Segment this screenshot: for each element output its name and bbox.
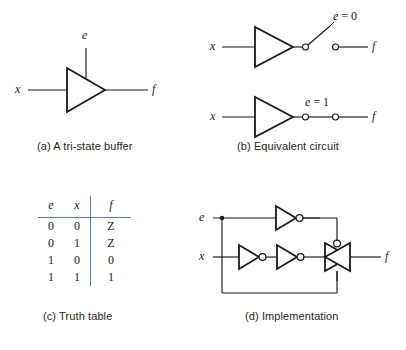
truth-table-header-row: e x f bbox=[38, 196, 131, 218]
panel-a-diagram bbox=[28, 48, 148, 112]
panel-c-caption: (c) Truth table bbox=[43, 310, 112, 322]
truth-table-cell-x: 1 bbox=[64, 235, 91, 252]
truth-table-cell-e: 0 bbox=[38, 218, 64, 236]
panel-b-open-condition-eq: = bbox=[341, 9, 348, 23]
panel-b-open-switch-left-contact bbox=[303, 44, 309, 50]
panel-b-closed-switch-right-contact bbox=[333, 114, 339, 120]
panel-a-enable-label: e bbox=[82, 28, 87, 43]
panel-b-open-condition-var: e bbox=[333, 9, 338, 23]
panel-b-caption: (b) Equivalent circuit bbox=[237, 140, 339, 152]
panel-a-caption: (a) A tri-state buffer bbox=[37, 140, 133, 152]
panel-b-open-switch-right-contact bbox=[333, 44, 339, 50]
panel-b-open-condition-label: e = 0 bbox=[333, 9, 357, 24]
truth-table-header-e: e bbox=[38, 196, 64, 218]
panel-b-open-output-label: f bbox=[372, 39, 375, 54]
panel-d-input-inverter2-symbol bbox=[277, 245, 297, 269]
panel-a-input-label: x bbox=[15, 82, 20, 97]
truth-table: e x f 0 0 Z 0 1 Z bbox=[38, 196, 146, 296]
panel-d-input-inverter1-symbol bbox=[239, 245, 259, 269]
truth-table-cell-e: 0 bbox=[38, 235, 64, 252]
truth-table-cell-f: Z bbox=[91, 235, 131, 252]
truth-table-cell-f: 1 bbox=[91, 269, 131, 286]
truth-table-cell-f: Z bbox=[91, 218, 131, 236]
panel-b-row-closed-diagram bbox=[222, 97, 368, 137]
panel-b-closed-input-label: x bbox=[210, 109, 215, 124]
table-row: 0 1 Z bbox=[38, 235, 131, 252]
panel-d-enable-inverter-symbol bbox=[276, 206, 296, 230]
truth-table-grid: e x f 0 0 Z 0 1 Z bbox=[38, 196, 131, 286]
truth-table-cell-e: 1 bbox=[38, 252, 64, 269]
panel-b-open-input-label: x bbox=[210, 39, 215, 54]
panel-d-pass-gate-bubble bbox=[334, 240, 341, 247]
panel-d-enable-inverter-bubble bbox=[296, 215, 303, 222]
table-row: 1 0 0 bbox=[38, 252, 131, 269]
truth-table-cell-x: 1 bbox=[64, 269, 91, 286]
panel-d-output-label: f bbox=[385, 249, 388, 264]
truth-table-cell-x: 0 bbox=[64, 252, 91, 269]
panel-d-input-inverter2-bubble bbox=[297, 254, 304, 261]
figure-canvas: .wire { stroke: #1a1a1a; stroke-width: 1… bbox=[0, 0, 406, 350]
panel-b-closed-condition-label: e = 1 bbox=[305, 95, 329, 110]
panel-d-input-label: x bbox=[199, 249, 204, 264]
panel-d-enable-label: e bbox=[199, 210, 204, 225]
panel-b-row-open-diagram bbox=[222, 22, 368, 67]
truth-table-cell-e: 1 bbox=[38, 269, 64, 286]
truth-table-cell-f: 0 bbox=[91, 252, 131, 269]
table-row: 1 1 1 bbox=[38, 269, 131, 286]
panel-a-output-label: f bbox=[152, 82, 155, 97]
panel-b-closed-output-label: f bbox=[372, 109, 375, 124]
figure-root: .wire { stroke: #1a1a1a; stroke-width: 1… bbox=[0, 0, 406, 350]
truth-table-cell-x: 0 bbox=[64, 218, 91, 236]
truth-table-header-x: x bbox=[64, 196, 91, 218]
panel-b-closed-buffer-symbol bbox=[255, 97, 293, 137]
panel-b-closed-condition-var: e bbox=[305, 95, 310, 109]
truth-table-header-f: f bbox=[91, 196, 131, 218]
table-row: 0 0 Z bbox=[38, 218, 131, 236]
panel-d-diagram bbox=[213, 206, 381, 293]
panel-b-open-switch-blade bbox=[308, 26, 330, 45]
panel-b-closed-switch-left-contact bbox=[303, 114, 309, 120]
panel-b-open-condition-value: 0 bbox=[351, 9, 357, 23]
panel-b-open-buffer-symbol bbox=[255, 27, 293, 67]
panel-d-input-inverter1-bubble bbox=[259, 254, 266, 261]
panel-b-closed-condition-value: 1 bbox=[323, 95, 329, 109]
panel-b-closed-condition-eq: = bbox=[313, 95, 320, 109]
panel-d-caption: (d) Implementation bbox=[245, 310, 339, 322]
